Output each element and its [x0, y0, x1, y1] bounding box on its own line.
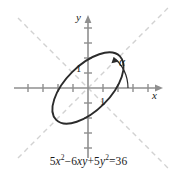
equation-equals: =: [109, 155, 116, 167]
minor-axis-dashed-line: [18, 18, 168, 168]
conic-equation-caption: 5x2−6xy+5y2=36: [0, 155, 177, 167]
y-axis-label: y: [75, 11, 81, 23]
major-axis-dashed-line: [18, 8, 168, 158]
y-axis-arrowhead: [85, 15, 92, 23]
y-unit-label: 1: [76, 63, 81, 74]
x-unit-label: 1: [100, 96, 105, 107]
y-axis: [84, 15, 92, 158]
x-axis-label: x: [151, 89, 157, 101]
conic-section-figure: x y 1 1 α 5x2−6xy+5y2=36: [0, 0, 177, 182]
angle-alpha-label: α: [119, 56, 126, 68]
equation-term2-var: xy: [77, 155, 87, 167]
equation-rhs: 36: [116, 155, 128, 167]
